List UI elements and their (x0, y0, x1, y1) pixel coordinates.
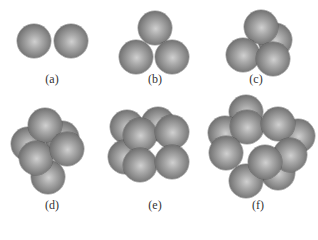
sphere-icon (19, 141, 53, 175)
sphere-icon (261, 107, 295, 141)
sphere-icon (226, 38, 260, 72)
sphere-icon (123, 148, 157, 182)
sphere-icon (256, 42, 290, 76)
sphere-icon (123, 118, 157, 152)
panel-label: (c) (249, 72, 262, 87)
sphere-icon (50, 132, 84, 166)
panel-label: (d) (45, 198, 59, 213)
sphere-icon (119, 40, 153, 74)
panel-label: (a) (45, 72, 58, 87)
sphere-icon (155, 145, 189, 179)
panel-label: (e) (148, 198, 161, 213)
sphere-icon (209, 136, 243, 170)
sphere-icon (54, 24, 88, 58)
panel-label: (b) (148, 72, 162, 87)
sphere-icon (248, 145, 282, 179)
sphere-icon (17, 24, 51, 58)
panel-label: (f) (252, 198, 264, 213)
sphere-icon (155, 115, 189, 149)
sphere-icon (155, 40, 189, 74)
